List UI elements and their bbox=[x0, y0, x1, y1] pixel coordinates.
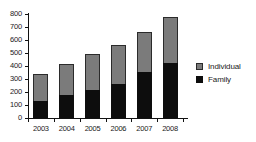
x-axis-tick bbox=[28, 118, 29, 122]
bar-segment-individual bbox=[137, 32, 152, 72]
x-axis-line bbox=[28, 118, 188, 119]
legend-label: Individual bbox=[208, 62, 241, 71]
bar-group bbox=[111, 45, 126, 118]
y-axis-tick-label: 300 bbox=[0, 75, 22, 83]
bar-segment-family bbox=[137, 72, 152, 118]
x-axis-tick bbox=[157, 118, 158, 122]
bar-segment-family bbox=[111, 84, 126, 118]
stacked-bar-chart: 0100200300400500600700800 20032004200520… bbox=[0, 0, 256, 142]
bar-group bbox=[33, 74, 48, 118]
bar-segment-family bbox=[59, 95, 74, 118]
legend-item: Individual bbox=[196, 60, 241, 73]
bar-group bbox=[85, 54, 100, 118]
y-axis-tick-label: 0 bbox=[0, 114, 22, 122]
legend-swatch-individual bbox=[196, 63, 203, 70]
bar-group bbox=[137, 32, 152, 118]
bar-segment-individual bbox=[33, 74, 48, 101]
x-axis-tick bbox=[106, 118, 107, 122]
bar-segment-family bbox=[85, 90, 100, 118]
x-axis-tick bbox=[54, 118, 55, 122]
y-axis-tick-label: 400 bbox=[0, 62, 22, 70]
legend-item: Family bbox=[196, 73, 241, 86]
y-axis-tick-label: 200 bbox=[0, 88, 22, 96]
y-axis-tick-label: 100 bbox=[0, 101, 22, 109]
bar-segment-family bbox=[163, 63, 178, 118]
legend-swatch-family bbox=[196, 76, 203, 83]
x-axis-tick bbox=[80, 118, 81, 122]
plot-area bbox=[28, 14, 183, 118]
chart-legend: IndividualFamily bbox=[196, 60, 241, 86]
bar-segment-family bbox=[33, 101, 48, 118]
x-axis-tick bbox=[183, 118, 184, 122]
bar-segment-individual bbox=[59, 64, 74, 95]
bar-segment-individual bbox=[111, 45, 126, 83]
bar-group bbox=[163, 17, 178, 118]
y-axis-tick-label: 600 bbox=[0, 36, 22, 44]
y-axis-tick-label: 800 bbox=[0, 10, 22, 18]
bar-group bbox=[59, 64, 74, 118]
y-axis-tick-label: 700 bbox=[0, 23, 22, 31]
bar-segment-individual bbox=[85, 54, 100, 90]
legend-label: Family bbox=[208, 75, 231, 84]
x-axis-tick bbox=[131, 118, 132, 122]
y-axis-tick-label: 500 bbox=[0, 49, 22, 57]
bar-segment-individual bbox=[163, 17, 178, 63]
x-axis-tick-label: 2008 bbox=[155, 125, 185, 133]
